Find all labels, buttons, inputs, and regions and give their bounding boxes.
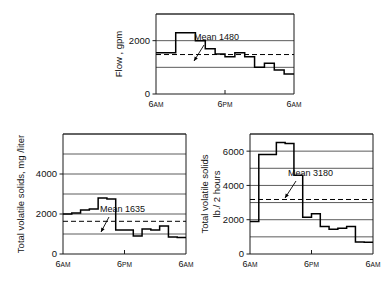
- tvs-concentration-chart-yaxis-title: Total volatile solids, mg /liter: [15, 135, 26, 253]
- tvs-load-chart-mean-annotation: Mean 3180: [285, 168, 333, 198]
- flow-chart-xtick-label: 6AM: [149, 99, 164, 109]
- tvs-load-chart-mean-label: Mean 3180: [288, 168, 333, 178]
- flow-chart-ytick-label: 2000: [129, 35, 150, 46]
- tvs-load-chart-yaxis-ticks: 0200040006000: [223, 146, 250, 260]
- tvs-concentration-chart-grid: [63, 134, 186, 234]
- flow-chart-panel: 02000 6AM6PM6AM Mean 1480 Flow , gpm: [108, 8, 298, 116]
- tvs-load-chart-frame: [250, 134, 373, 254]
- tvs-concentration-chart-yaxis-title: Total volatile solids, mg /liter: [15, 135, 26, 253]
- tvs-load-chart-svg: 0200040006000 6AM6PM6AM Mean 3180 Total …: [192, 128, 377, 283]
- tvs-load-chart-plot-frame: [250, 134, 373, 254]
- tvs-load-chart-xtick-label: 6PM: [304, 259, 319, 269]
- tvs-concentration-chart-svg: 020004000 6AM6PM6AM Mean 1635 Total vola…: [8, 128, 190, 283]
- tvs-concentration-chart-yaxis-ticks: 020004000: [36, 168, 63, 259]
- tvs-concentration-chart-ytick-label: 2000: [36, 208, 57, 219]
- tvs-concentration-chart-xaxis-ticks: 6AM6PM6AM: [56, 250, 194, 269]
- tvs-concentration-chart-xtick-label: 6PM: [117, 259, 132, 269]
- flow-chart-svg: 02000 6AM6PM6AM Mean 1480 Flow , gpm: [108, 8, 298, 116]
- tvs-load-chart-ytick-label: 4000: [223, 180, 244, 191]
- flow-chart-yaxis-title: Flow , gpm: [113, 31, 124, 78]
- tvs-load-chart-ytick-label: 6000: [223, 146, 244, 157]
- flow-chart-yaxis-title: Flow , gpm: [113, 31, 124, 78]
- flow-chart-yaxis-ticks: 02000: [129, 35, 156, 99]
- tvs-concentration-chart-mean-annotation: Mean 1635: [100, 204, 145, 232]
- flow-chart-ytick-label: 0: [145, 88, 150, 99]
- tvs-concentration-chart-xtick-label: 6AM: [56, 259, 71, 269]
- tvs-load-chart-grid: [250, 134, 373, 237]
- tvs-load-chart-yaxis-title: lb./ 2 hours: [211, 170, 222, 217]
- flow-chart-xtick-label: 6AM: [287, 99, 302, 109]
- tvs-load-chart-series: [250, 143, 373, 243]
- tvs-concentration-chart-panel: 020004000 6AM6PM6AM Mean 1635 Total vola…: [8, 128, 190, 283]
- tvs-load-chart-ytick-label: 0: [239, 248, 244, 259]
- tvs-load-chart-step-series: [250, 143, 373, 243]
- tvs-load-chart-yaxis-title: Total volatile solidslb./ 2 hours: [199, 154, 222, 233]
- tvs-load-chart-ytick-label: 2000: [223, 214, 244, 225]
- tvs-concentration-chart-mean-label: Mean 1635: [100, 204, 145, 214]
- tvs-load-chart-panel: 0200040006000 6AM6PM6AM Mean 3180 Total …: [192, 128, 377, 283]
- tvs-load-chart-yaxis-title: Total volatile solids: [199, 154, 210, 233]
- flow-chart-xaxis-ticks: 6AM6PM6AM: [149, 90, 302, 109]
- flow-chart-mean-label: Mean 1480: [194, 32, 239, 42]
- tvs-concentration-chart-ytick-label: 0: [52, 248, 57, 259]
- tvs-concentration-chart-ytick-label: 4000: [36, 168, 57, 179]
- tvs-load-chart-xtick-label: 6AM: [366, 259, 381, 269]
- tvs-load-chart-xtick-label: 6AM: [243, 259, 258, 269]
- figure-container: 02000 6AM6PM6AM Mean 1480 Flow , gpm 020…: [0, 0, 381, 289]
- tvs-load-chart-xaxis-ticks: 6AM6PM6AM: [243, 250, 381, 269]
- flow-chart-xtick-label: 6PM: [218, 99, 233, 109]
- tvs-load-chart-mean-leader-arrowhead: [285, 193, 289, 198]
